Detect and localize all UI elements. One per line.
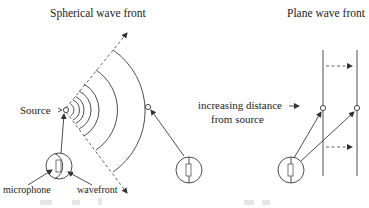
source-point [58, 107, 69, 112]
microphone-icon [56, 160, 61, 172]
spherical-title: Spherical wave front [50, 7, 147, 20]
plane-wavefronts [320, 50, 359, 176]
microphone-near-source [46, 114, 72, 179]
microphone-pointer [28, 170, 52, 185]
spherical-wavefronts [71, 50, 146, 172]
plane-title: Plane wave front [287, 7, 366, 19]
direction-rays [66, 33, 127, 193]
distance-label-line1: increasing distance [198, 99, 282, 111]
distance-label-line2: from source [211, 113, 264, 125]
source-label: Source [20, 104, 51, 116]
arc-sample-point [145, 104, 150, 109]
clipped-caption-artifacts [40, 198, 270, 205]
wavefront-label: wavefront [77, 184, 118, 195]
microphone-plane [278, 112, 354, 183]
wavefront-diagram: Spherical wave front Plane wave front So… [0, 0, 369, 208]
microphone-label: microphone [3, 184, 51, 195]
microphone-icon [288, 164, 293, 176]
microphone-far-arc [151, 110, 202, 183]
microphone-icon [186, 164, 191, 176]
